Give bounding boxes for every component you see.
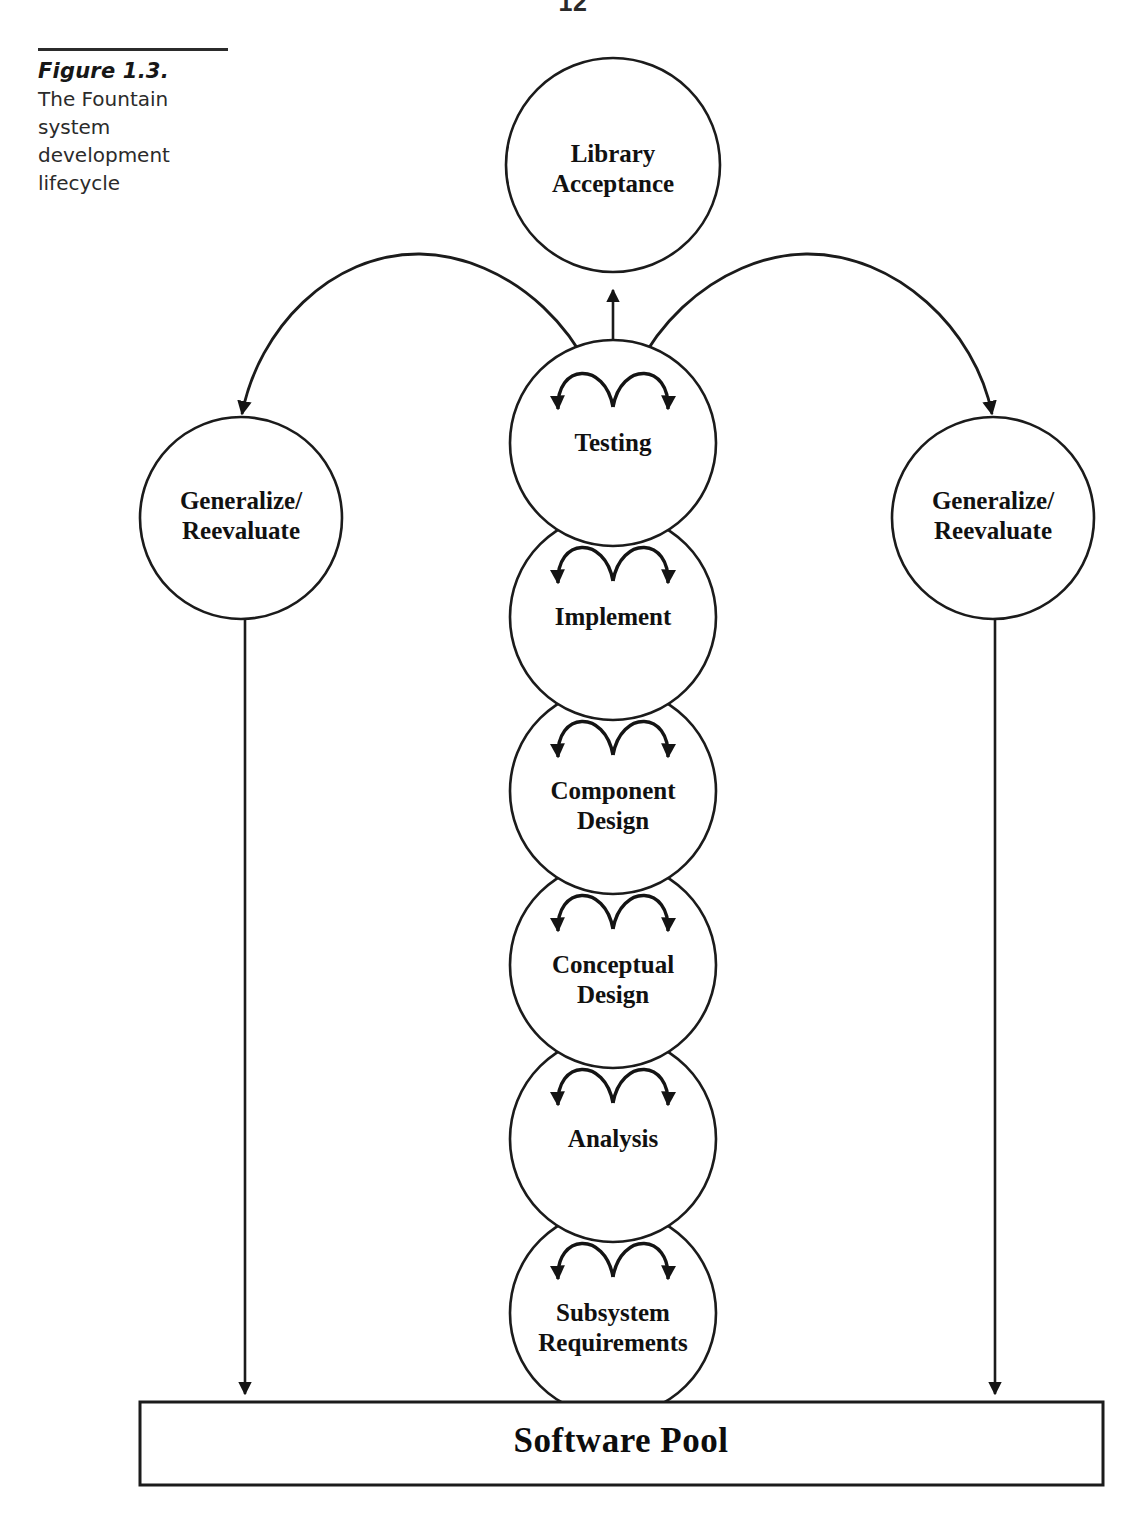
- software-pool[interactable]: Software Pool: [140, 1402, 1103, 1485]
- top-node-library-acceptance[interactable]: Library Acceptance: [506, 58, 720, 272]
- stack-node-testing[interactable]: Testing: [510, 340, 716, 546]
- stack-node-label: Analysis: [568, 1125, 659, 1152]
- stack-node-label: Implement: [555, 603, 672, 630]
- stack-node-label: Testing: [575, 429, 652, 456]
- stack-node-label: Subsystem: [556, 1299, 670, 1326]
- figure-page: 12 Figure 1.3. The Fountain system devel…: [0, 0, 1146, 1518]
- stack-node-label: Component: [550, 777, 676, 804]
- side-node-label-2: Reevaluate: [182, 517, 300, 544]
- stack-node-label-2: Requirements: [538, 1329, 688, 1356]
- side-node-generalize-reevaluate-right[interactable]: Generalize/ Reevaluate: [892, 417, 1094, 619]
- stack-node-label-2: Design: [577, 981, 649, 1008]
- side-node-label: Generalize/: [932, 487, 1055, 514]
- side-node-label: Generalize/: [180, 487, 303, 514]
- fountain-lifecycle-diagram: Subsystem Requirements Analysis Conceptu…: [0, 0, 1146, 1518]
- stack-node-label: Conceptual: [552, 951, 674, 978]
- top-node-label: Library: [571, 140, 656, 167]
- software-pool-label: Software Pool: [514, 1421, 729, 1460]
- top-node-label-2: Acceptance: [552, 170, 674, 197]
- side-node-label-2: Reevaluate: [934, 517, 1052, 544]
- side-node-generalize-reevaluate-left[interactable]: Generalize/ Reevaluate: [140, 417, 342, 619]
- stack-node-label-2: Design: [577, 807, 649, 834]
